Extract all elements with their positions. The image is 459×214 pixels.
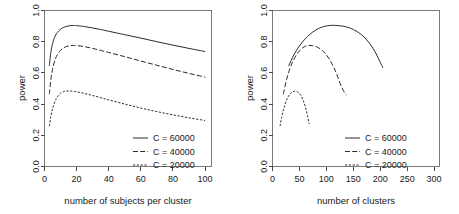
- r-x-tick-label: 50: [294, 174, 304, 184]
- r-x-tick-label: 100: [319, 174, 334, 184]
- legend-label: C = 20000: [365, 160, 407, 170]
- l-y-tick-label: 0.4: [31, 98, 41, 111]
- right-panel-svg: 050100150200250300 0.00.20.40.60.81.0 C …: [229, 0, 459, 214]
- r-y-tick-label: 0.4: [259, 98, 269, 111]
- r-y-tick-label: 0.6: [259, 67, 269, 80]
- l-y-tick-label: 0.0: [31, 160, 41, 173]
- r-x-tick-label: 300: [427, 174, 442, 184]
- legend-label: C = 60000: [153, 133, 195, 143]
- r-y-tick-label: 0.2: [259, 129, 269, 142]
- l-x-tick-label: 60: [136, 174, 146, 184]
- l-x-tick-label: 20: [72, 174, 82, 184]
- r-x-tick-label: 150: [346, 174, 361, 184]
- l-y-tick-label: 0.6: [31, 67, 41, 80]
- r-y-tick-label: 0.0: [259, 160, 269, 173]
- r-x-tick-label: 0: [270, 174, 275, 184]
- l-x-tick-label: 40: [104, 174, 114, 184]
- legend-label: C = 40000: [153, 147, 195, 157]
- legend-label: C = 20000: [153, 160, 195, 170]
- r-x-tick-label: 250: [400, 174, 415, 184]
- r-y-tick-label: 0.8: [259, 35, 269, 48]
- l-y-tick-label: 0.8: [31, 35, 41, 48]
- figure-two-panel-power-plots: 020406080100 0.00.20.40.60.81.0 C = 6000…: [0, 0, 459, 214]
- left-panel-svg: 020406080100 0.00.20.40.60.81.0 C = 6000…: [0, 0, 230, 214]
- chart-panel-subjects-per-cluster: 020406080100 0.00.20.40.60.81.0 C = 6000…: [0, 0, 230, 214]
- left-x-axis-title: number of subjects per cluster: [64, 195, 191, 206]
- l-y-tick-label: 0.2: [31, 129, 41, 142]
- left-y-axis-title: power: [16, 75, 27, 101]
- l-x-tick-label: 0: [42, 174, 47, 184]
- legend-label: C = 40000: [365, 147, 407, 157]
- l-x-tick-label: 100: [198, 174, 213, 184]
- l-x-tick-label: 80: [168, 174, 178, 184]
- r-y-tick-label: 1.0: [259, 4, 269, 17]
- chart-panel-number-of-clusters: 050100150200250300 0.00.20.40.60.81.0 C …: [229, 0, 459, 214]
- l-y-tick-label: 1.0: [31, 4, 41, 17]
- right-y-axis-title: power: [244, 75, 255, 101]
- r-x-tick-label: 200: [373, 174, 388, 184]
- legend-label: C = 60000: [365, 133, 407, 143]
- right-x-axis-title: number of clusters: [317, 195, 395, 206]
